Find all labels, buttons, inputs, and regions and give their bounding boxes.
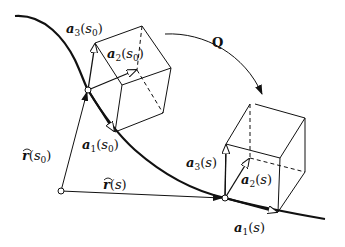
point-s	[222, 195, 228, 201]
origin-point	[58, 188, 64, 194]
point-s0	[85, 87, 91, 93]
label-a3-s0: a3(s0)	[66, 21, 103, 38]
label-a1-s: a1(s)	[234, 220, 265, 237]
a1-s0-vector	[88, 90, 114, 131]
a3-s-vector	[225, 145, 226, 198]
diagram-canvas: Q a3(s0) a2(s0) a1(s0) r(s0) r(s) a3(s) …	[0, 0, 345, 247]
a3-s0-vector	[88, 44, 95, 90]
label-r-s0: r(s0)	[22, 148, 51, 165]
a2-s0-vector	[88, 70, 136, 90]
cube-s0	[88, 26, 171, 132]
label-a1-s0: a1(s0)	[82, 137, 119, 154]
label-a2-s: a2(s)	[241, 172, 272, 189]
label-a2-s0: a2(s0)	[107, 46, 144, 63]
label-Q: Q	[212, 35, 223, 50]
a1-s-vector	[225, 198, 277, 212]
label-r-s: r(s)	[103, 177, 127, 192]
label-a3-s: a3(s)	[186, 155, 217, 172]
position-vector-r-s	[61, 191, 222, 198]
cube-s	[225, 104, 305, 212]
